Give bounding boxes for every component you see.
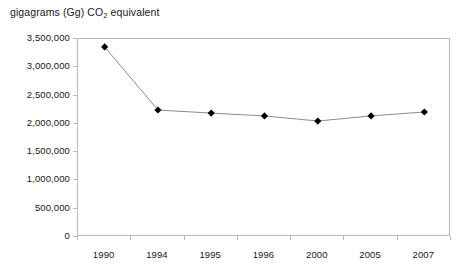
plot-area	[77, 38, 450, 236]
x-tick-mark	[77, 236, 78, 240]
y-tick-mark	[73, 38, 77, 39]
y-tick-label: 0	[0, 231, 70, 241]
y-axis: 0500,0001,000,0001,500,0002,000,0002,500…	[0, 0, 70, 274]
axis-caption-subscript: 2	[103, 11, 107, 20]
x-tick-label: 2007	[393, 249, 453, 260]
x-tick-label: 1996	[234, 249, 294, 260]
y-tick-label: 1,500,000	[0, 146, 70, 156]
y-tick-label: 500,000	[0, 203, 70, 213]
series-plot	[78, 39, 451, 237]
x-tick-mark	[343, 236, 344, 240]
y-tick-mark	[73, 123, 77, 124]
data-point-marker	[261, 112, 268, 119]
y-tick-label: 2,500,000	[0, 90, 70, 100]
y-tick-mark	[73, 66, 77, 67]
x-tick-mark	[397, 236, 398, 240]
y-tick-label: 1,000,000	[0, 174, 70, 184]
series-line	[105, 47, 425, 121]
x-tick-mark	[290, 236, 291, 240]
data-point-marker	[314, 117, 321, 124]
y-tick-label: 3,000,000	[0, 61, 70, 71]
x-tick-label: 1994	[127, 249, 187, 260]
x-tick-label: 1990	[74, 249, 134, 260]
x-tick-mark	[130, 236, 131, 240]
data-point-marker	[421, 108, 428, 115]
series-markers	[101, 43, 428, 124]
data-point-marker	[367, 112, 374, 119]
y-tick-mark	[73, 151, 77, 152]
data-point-marker	[208, 110, 215, 117]
x-tick-label: 2000	[287, 249, 347, 260]
y-tick-label: 2,000,000	[0, 118, 70, 128]
y-tick-mark	[73, 179, 77, 180]
y-tick-mark	[73, 95, 77, 96]
x-tick-label: 2005	[340, 249, 400, 260]
x-tick-label: 1995	[180, 249, 240, 260]
y-tick-mark	[73, 208, 77, 209]
x-tick-mark	[184, 236, 185, 240]
x-tick-mark	[450, 236, 451, 240]
y-tick-label: 3,500,000	[0, 33, 70, 43]
x-tick-mark	[237, 236, 238, 240]
emissions-line-chart: gigagrams (Gg) CO2 equivalent 0500,0001,…	[0, 0, 468, 274]
axis-caption-suffix: equivalent	[108, 6, 160, 18]
